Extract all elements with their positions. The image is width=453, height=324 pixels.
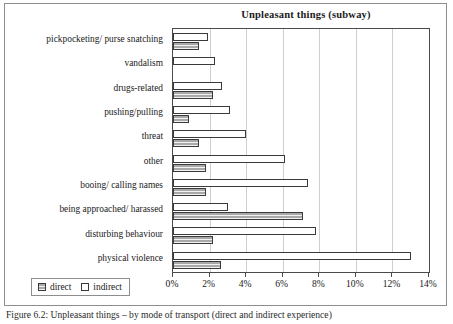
x-tick [428, 273, 429, 277]
x-tick-label: 8% [312, 278, 325, 289]
category-label: pickpocketing/ purse snatching [46, 34, 163, 45]
bar-row [173, 104, 429, 128]
bar-row [173, 55, 429, 79]
chart-title: Unpleasant things (subway) [177, 9, 435, 20]
bar-row [173, 31, 429, 55]
bar-direct [173, 91, 213, 99]
figure-caption: Figure 6.2: Unpleasant things – by mode … [6, 309, 447, 323]
legend-label-indirect: indirect [93, 282, 122, 292]
legend-item-direct: direct [38, 282, 71, 292]
bar-indirect [173, 155, 285, 163]
x-tick [245, 273, 246, 277]
plot-area [172, 28, 430, 273]
bar-indirect [173, 106, 230, 114]
x-tick-label: 10% [346, 278, 364, 289]
bar-direct [173, 236, 213, 244]
legend-swatch-indirect [81, 283, 89, 291]
bar-indirect [173, 130, 246, 138]
x-tick [172, 273, 173, 277]
bar-indirect [173, 57, 215, 65]
x-tick-label: 0% [166, 278, 179, 289]
x-tick [318, 273, 319, 277]
bar-direct [173, 42, 199, 50]
category-label: being approached/ harassed [59, 204, 163, 215]
category-label: vandalism [124, 58, 163, 69]
bar-row [173, 128, 429, 152]
bar-indirect [173, 179, 308, 187]
legend-swatch-direct [38, 283, 46, 291]
bar-rows [173, 29, 429, 272]
bar-direct [173, 261, 221, 269]
bar-direct [173, 139, 199, 147]
category-label: pushing/pulling [104, 107, 163, 118]
category-label: booing/ calling names [80, 180, 163, 191]
bar-row [173, 80, 429, 104]
figure-container: Unpleasant things (subway) pickpocketing… [4, 3, 447, 306]
x-tick-label: 14% [419, 278, 437, 289]
x-tick [282, 273, 283, 277]
x-tick-label: 6% [275, 278, 288, 289]
bar-row [173, 250, 429, 274]
bar-direct [173, 164, 206, 172]
bar-direct [173, 212, 303, 220]
bar-row [173, 225, 429, 249]
bar-direct [173, 115, 189, 123]
category-label: physical violence [98, 253, 163, 264]
bar-indirect [173, 82, 222, 90]
category-label: other [144, 156, 163, 167]
bar-row [173, 177, 429, 201]
category-label: threat [142, 131, 163, 142]
bar-row [173, 153, 429, 177]
legend-label-direct: direct [50, 282, 71, 292]
chart-legend: direct indirect [31, 278, 130, 296]
bar-row [173, 201, 429, 225]
bar-indirect [173, 33, 208, 41]
x-tick [209, 273, 210, 277]
category-label: disturbing behaviour [85, 229, 163, 240]
category-label: drugs-related [114, 83, 163, 94]
x-tick-label: 2% [202, 278, 215, 289]
legend-item-indirect: indirect [81, 282, 122, 292]
bar-direct [173, 188, 206, 196]
x-tick [391, 273, 392, 277]
bar-indirect [173, 203, 228, 211]
x-tick [355, 273, 356, 277]
x-tick-label: 12% [383, 278, 401, 289]
x-axis: 0%2%4%6%8%10%12%14% [172, 273, 430, 295]
bar-indirect [173, 252, 411, 260]
category-labels: pickpocketing/ purse snatchingvandalismd… [5, 28, 169, 273]
bar-indirect [173, 227, 316, 235]
x-tick-label: 4% [239, 278, 252, 289]
